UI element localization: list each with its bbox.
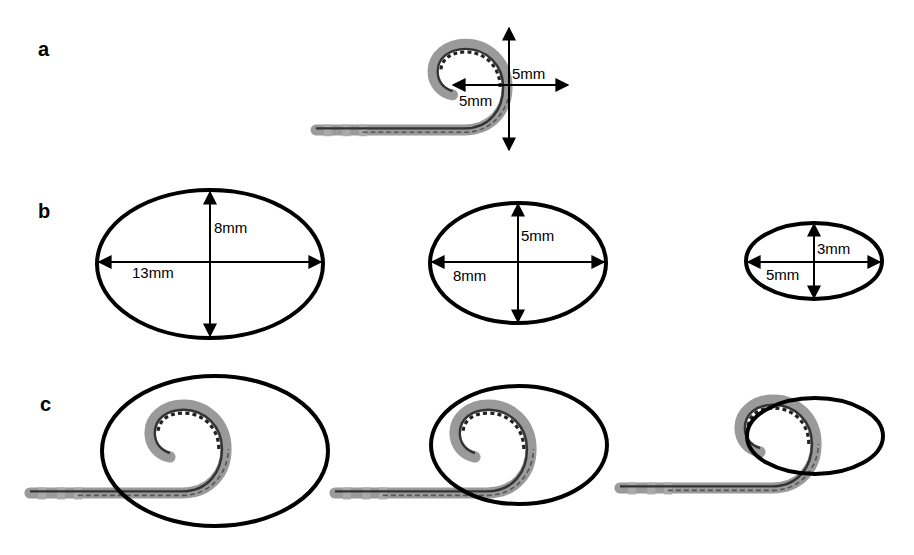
panel-a-vertical-label: 5mm [512,65,545,82]
ellipse-medium-vertical-label: 5mm [521,227,554,244]
panel-b-ellipse-small: 3mm 5mm [746,223,882,299]
panel-c-overlay-medium [335,386,607,504]
panel-a-horizontal-label: 5mm [459,92,492,109]
panel-b-ellipse-large: 8mm 13mm [97,190,323,338]
ellipse-small-horizontal-label: 5mm [766,266,799,283]
panel-c-overlay-small [620,398,883,494]
panel-c-overlay-large [30,376,328,526]
ellipse-large-horizontal-label: 13mm [132,264,174,281]
panel-a-catheter [316,44,509,136]
ellipse-large-vertical-label: 8mm [214,219,247,236]
figure-canvas: 5mm 5mm 8mm 13mm 5mm 8mm 3mm 5mm [0,0,914,555]
panel-b-ellipse-medium: 5mm 8mm [430,203,606,323]
ellipse-medium-horizontal-label: 8mm [453,267,486,284]
ellipse-small-vertical-label: 3mm [817,240,850,257]
